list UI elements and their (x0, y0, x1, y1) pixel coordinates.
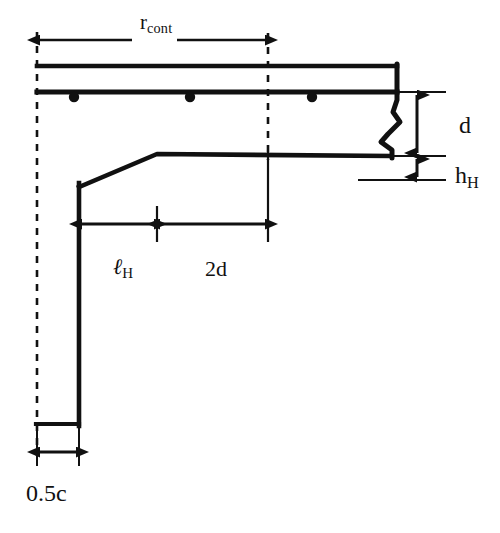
drop-panel-profile (79, 154, 390, 187)
label-r-cont-base: r (140, 10, 147, 34)
label-h-H-base: h (455, 162, 467, 188)
reference-lines (358, 92, 446, 180)
engineering-diagram: rcont d hH ℓH 2d 0.5c (0, 0, 500, 533)
label-r-cont: rcont (140, 12, 172, 35)
label-half-c-base: 0.5c (26, 480, 67, 506)
label-l-H-subscript: H (122, 265, 133, 281)
slab-right-break-edge (381, 64, 400, 158)
label-d-base: d (459, 112, 471, 138)
label-d: d (459, 113, 471, 137)
label-2d: 2d (205, 258, 227, 280)
drop-panel-haunch (79, 154, 390, 187)
label-2d-base: 2d (205, 256, 227, 281)
rebar-dot (69, 92, 79, 102)
dimension-half-c (37, 424, 79, 466)
label-h-H-subscript: H (467, 173, 479, 192)
slab-outline (37, 64, 400, 158)
label-h-H: hH (455, 163, 479, 191)
label-l-H-base: ℓ (113, 254, 122, 279)
label-l-H: ℓH (113, 256, 133, 281)
rebar-dot (185, 92, 195, 102)
label-half-c: 0.5c (26, 481, 67, 505)
rebar-dot (307, 92, 317, 102)
diagram-canvas (0, 0, 500, 533)
column (36, 183, 79, 426)
label-r-cont-subscript: cont (147, 20, 172, 36)
